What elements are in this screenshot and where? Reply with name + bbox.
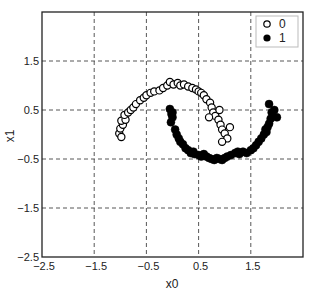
- filled-circle-marker: [189, 148, 197, 156]
- legend-label-1: 1: [279, 31, 286, 45]
- open-circle-marker: [118, 133, 125, 140]
- legend-label-0: 0: [279, 17, 286, 31]
- open-circle-marker: [226, 124, 233, 131]
- x-tick-labels: −2.5−1.5−0.50.51.5: [33, 260, 260, 272]
- filled-circle-marker: [261, 126, 269, 134]
- scatter-chart: −2.5−1.5−0.50.51.5 −2.5−1.5−0.50.51.5 x0…: [0, 0, 313, 294]
- filled-circle-marker: [167, 118, 175, 126]
- filled-circle-marker: [169, 108, 177, 116]
- x-tick-label: −0.5: [138, 260, 160, 272]
- x-tick-label: −1.5: [85, 260, 107, 272]
- legend-open-circle-icon: [264, 21, 270, 27]
- y-tick-label: 0.5: [24, 104, 39, 116]
- open-circle-marker: [216, 106, 223, 113]
- legend: 0 1: [256, 16, 298, 47]
- data-points: [116, 78, 281, 164]
- x-tick-label: 1.5: [245, 260, 260, 272]
- legend-filled-circle-icon: [263, 34, 270, 41]
- y-tick-label: −1.5: [17, 202, 39, 214]
- x-tick-label: 0.5: [193, 260, 208, 272]
- y-tick-label: −0.5: [17, 153, 39, 165]
- y-tick-label: −2.5: [17, 251, 39, 263]
- y-axis-label: x1: [3, 129, 17, 142]
- open-circle-marker: [205, 114, 212, 121]
- filled-circle-marker: [270, 106, 278, 114]
- y-tick-labels: −2.5−1.5−0.50.51.5: [17, 55, 39, 263]
- x-axis-label: x0: [166, 277, 179, 291]
- open-circle-marker: [218, 138, 225, 145]
- filled-circle-marker: [234, 148, 242, 156]
- y-tick-label: 1.5: [24, 55, 39, 67]
- legend-box: [256, 16, 298, 47]
- filled-circle-marker: [273, 113, 281, 121]
